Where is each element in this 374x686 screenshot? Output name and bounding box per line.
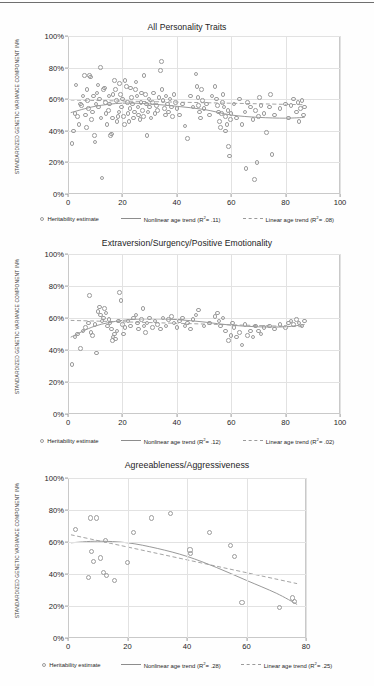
scatter-point [283, 102, 288, 107]
x-tick-mark [246, 638, 247, 641]
scatter-point [94, 515, 99, 520]
y-tick-label: 80% [49, 506, 64, 515]
scatter-point [245, 100, 250, 105]
y-tick-mark [65, 382, 68, 383]
y-tick-mark [65, 542, 68, 543]
chart-title: Agreeableness/Aggressiveness [0, 460, 374, 470]
scatter-point [150, 325, 155, 330]
y-tick-label: 0% [53, 190, 64, 199]
x-tick-mark [231, 194, 232, 197]
y-tick-mark [65, 286, 68, 287]
scatter-point [207, 113, 212, 118]
x-tick-label: 100 [334, 198, 347, 207]
legend-label-nonlinear: Nonlinear age trend (R2= .12) [144, 437, 221, 445]
scatter-point [248, 329, 253, 334]
scatter-point [256, 114, 261, 119]
legend-label-scatter: Heritability estimate [47, 216, 98, 222]
scatter-point [90, 110, 95, 115]
legend-label-nonlinear: Nonlinear age trend (R2= .28) [144, 661, 221, 669]
legend-item-linear: Linear age trend (R2= .02) [243, 437, 334, 445]
y-tick-mark [65, 130, 68, 131]
scatter-point [289, 103, 294, 108]
scatter-point [145, 133, 150, 138]
scatter-point [228, 117, 233, 122]
scatter-point [213, 84, 218, 89]
legend-item-nonlinear: Nonlinear age trend (R2= .11) [121, 215, 221, 223]
scatter-point [180, 102, 185, 107]
scatter-point [127, 119, 132, 124]
scatter-point [92, 133, 97, 138]
open-circle-icon [42, 663, 46, 667]
scatter-point [158, 68, 163, 73]
scatter-point [292, 599, 297, 604]
scatter-point [196, 308, 201, 313]
legend-label-scatter: Heritability estimate [47, 438, 98, 444]
scatter-point [207, 321, 212, 326]
chart-legend: Heritability estimate Nonlinear age tren… [0, 661, 374, 669]
scatter-point [98, 65, 103, 70]
scatter-point [98, 555, 103, 560]
scatter-point [90, 333, 95, 338]
y-tick-mark [65, 318, 68, 319]
scatter-point [101, 316, 106, 321]
x-tick-label: 40 [183, 642, 191, 651]
x-tick-mark [122, 194, 123, 197]
dashed-line-icon [243, 218, 263, 219]
scatter-point [257, 95, 262, 100]
x-tick-mark [340, 414, 341, 417]
y-tick-label: 40% [49, 570, 64, 579]
scatter-point [117, 290, 122, 295]
legend-item-scatter: Heritability estimate [40, 438, 99, 444]
x-tick-mark [285, 414, 286, 417]
x-tick-label: 80 [302, 642, 310, 651]
y-tick-label: 0% [53, 410, 64, 419]
y-tick-label: 20% [49, 158, 64, 167]
scatter-point [168, 511, 173, 516]
figure-panel-1: All Personality Traits STANDARDIZED GENE… [0, 18, 374, 234]
scatter-point [91, 559, 96, 564]
x-tick-label: 40 [173, 418, 181, 427]
x-tick-mark [122, 414, 123, 417]
scatter-point [267, 324, 272, 329]
y-tick-mark [65, 36, 68, 37]
x-tick-mark [127, 638, 128, 641]
gridline-horizontal [68, 131, 340, 132]
x-tick-label: 60 [227, 418, 235, 427]
scatter-point [75, 332, 80, 337]
gridline-vertical [286, 36, 287, 194]
scatter-point [139, 317, 144, 322]
gridline-horizontal [68, 350, 340, 351]
x-tick-mark [68, 638, 69, 641]
gridline-horizontal [68, 36, 340, 37]
scatter-point [207, 530, 212, 535]
scatter-point [102, 306, 107, 311]
x-tick-mark [68, 414, 69, 417]
y-tick-label: 40% [49, 126, 64, 135]
y-tick-mark [65, 350, 68, 351]
scatter-point [262, 325, 267, 330]
scatter-point [112, 578, 117, 583]
scatter-point [217, 119, 222, 124]
x-tick-label: 0 [66, 642, 70, 651]
legend-label-scatter: Heritability estimate [49, 662, 100, 668]
y-tick-label: 100% [45, 32, 64, 41]
chart-title: Extraversion/Surgency/Positive Emotional… [0, 238, 374, 248]
scatter-point [128, 324, 133, 329]
chart-title: All Personality Traits [0, 22, 374, 32]
scatter-point [89, 117, 94, 122]
scatter-point [175, 106, 180, 111]
scatter-point [218, 125, 223, 130]
gridline-vertical [286, 254, 287, 414]
scatter-point [73, 527, 78, 532]
scatter-point [131, 530, 136, 535]
y-tick-mark [65, 99, 68, 100]
x-tick-label: 80 [281, 198, 289, 207]
scatter-point [188, 551, 193, 556]
scatter-point [77, 122, 82, 127]
scatter-point [220, 100, 225, 105]
gridline-vertical [187, 478, 188, 638]
scatter-point [75, 114, 80, 119]
gridline-vertical [247, 478, 248, 638]
x-tick-label: 0 [66, 198, 70, 207]
scatter-point [159, 59, 164, 64]
